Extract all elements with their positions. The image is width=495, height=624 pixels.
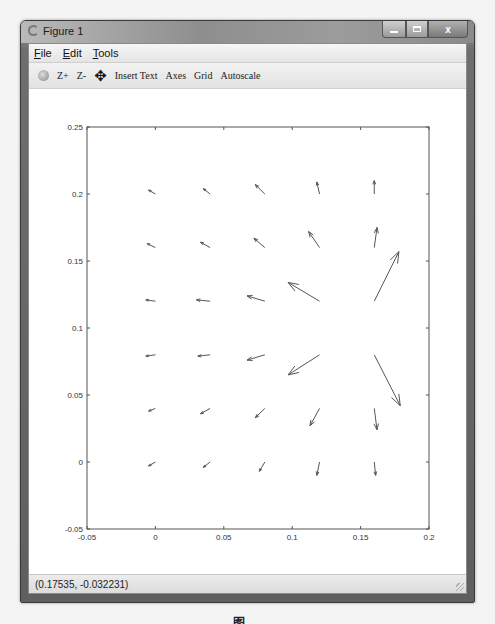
- menu-edit[interactable]: Edit: [63, 47, 82, 59]
- axes-button[interactable]: Axes: [166, 70, 187, 81]
- plot-axes: -0.0500.050.10.150.2-0.0500.050.10.150.2…: [65, 123, 435, 542]
- pan-icon[interactable]: ✥: [94, 67, 107, 85]
- y-tick-label: 0.1: [72, 324, 84, 333]
- window-client: File Edit Tools Z+ Z- ✥ Insert Text Axes…: [28, 43, 467, 594]
- menu-file-label: ile: [41, 47, 52, 59]
- menu-edit-label: dit: [70, 47, 82, 59]
- zoom-in-button[interactable]: Z+: [57, 70, 69, 81]
- window-controls: x: [382, 21, 468, 38]
- menu-file-accel: F: [34, 47, 41, 59]
- quiver-plot[interactable]: -0.0500.050.10.150.2-0.0500.050.10.150.2…: [29, 89, 468, 559]
- close-button[interactable]: x: [428, 21, 468, 38]
- x-tick-label: 0.05: [216, 533, 232, 542]
- zoom-out-button[interactable]: Z-: [77, 70, 86, 81]
- cursor-coordinates: (0.17535, -0.032231): [35, 579, 128, 590]
- y-tick-label: 0.15: [67, 257, 83, 266]
- resize-grip[interactable]: [456, 583, 464, 591]
- menu-tools-label: ools: [98, 47, 118, 59]
- maximize-icon: [413, 26, 421, 32]
- x-tick-label: 0: [153, 533, 158, 542]
- app-icon: [28, 25, 39, 36]
- y-tick-label: 0.25: [67, 123, 83, 132]
- x-tick-label: 0.1: [287, 533, 299, 542]
- y-tick-label: -0.05: [65, 525, 84, 534]
- menu-file[interactable]: File: [34, 47, 52, 59]
- figure-canvas[interactable]: -0.0500.050.10.150.2-0.0500.050.10.150.2…: [29, 89, 466, 575]
- figure-caption: 图 …: [0, 613, 495, 624]
- close-icon: x: [445, 24, 451, 35]
- maximize-button[interactable]: [406, 21, 428, 38]
- figure-window: Figure 1 x File Edit Tools Z+ Z- ✥ Inser…: [20, 20, 475, 603]
- y-tick-label: 0: [79, 458, 84, 467]
- grid-button[interactable]: Grid: [194, 70, 212, 81]
- rotate-3d-icon[interactable]: [38, 70, 49, 81]
- minimize-icon: [390, 31, 398, 33]
- insert-text-button[interactable]: Insert Text: [115, 70, 158, 81]
- title-bar[interactable]: Figure 1 x: [21, 21, 474, 43]
- menu-edit-accel: E: [63, 47, 70, 59]
- y-tick-label: 0.05: [67, 391, 83, 400]
- window-title: Figure 1: [43, 25, 83, 37]
- status-bar: (0.17535, -0.032231): [29, 574, 466, 593]
- menu-bar: File Edit Tools: [29, 44, 466, 63]
- x-tick-label: 0.2: [423, 533, 435, 542]
- x-tick-label: 0.15: [353, 533, 369, 542]
- y-tick-label: 0.2: [72, 190, 84, 199]
- x-tick-label: -0.05: [78, 533, 97, 542]
- autoscale-button[interactable]: Autoscale: [220, 70, 260, 81]
- menu-tools[interactable]: Tools: [93, 47, 119, 59]
- minimize-button[interactable]: [382, 21, 406, 38]
- toolbar: Z+ Z- ✥ Insert Text Axes Grid Autoscale: [29, 63, 466, 89]
